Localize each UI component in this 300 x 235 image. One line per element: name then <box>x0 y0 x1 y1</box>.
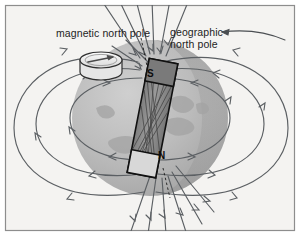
magnet-north-pole-box <box>127 150 160 178</box>
magnet-north-pole-letter: N <box>158 150 165 161</box>
label-magnetic-north-pole: magnetic north pole <box>56 27 150 39</box>
magnet-south-pole-letter: S <box>147 68 154 79</box>
diagram-canvas: magnetic north pole geographic north pol… <box>0 0 300 235</box>
compass <box>80 52 122 80</box>
label-geographic-line-1: geographic <box>170 26 223 38</box>
label-geographic-north-pole: geographic north pole <box>170 26 223 50</box>
label-geographic-line-2: north pole <box>170 38 223 50</box>
